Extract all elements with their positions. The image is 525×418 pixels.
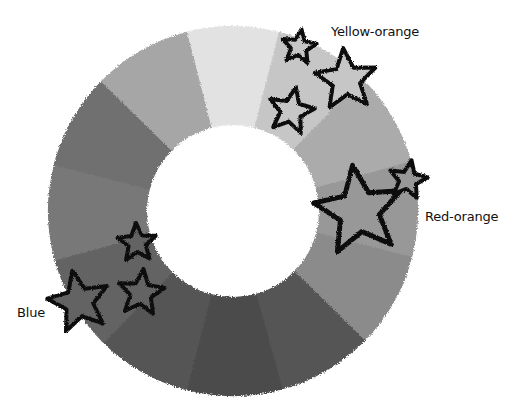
label-yellow-orange: Yellow-orange [331, 24, 419, 39]
label-blue: Blue [17, 305, 45, 320]
label-red-orange: Red-orange [425, 209, 498, 224]
